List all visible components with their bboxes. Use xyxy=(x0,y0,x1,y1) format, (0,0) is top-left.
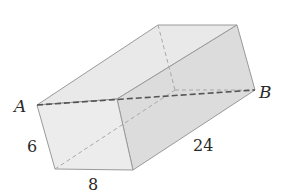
height-label: 6 xyxy=(27,137,37,156)
prism-diagram: A B 6 8 24 xyxy=(0,0,284,193)
width-label: 8 xyxy=(88,175,98,193)
length-label: 24 xyxy=(193,136,213,155)
vertex-label-b: B xyxy=(258,82,272,102)
vertex-label-a: A xyxy=(12,96,26,116)
front-face xyxy=(37,99,133,170)
